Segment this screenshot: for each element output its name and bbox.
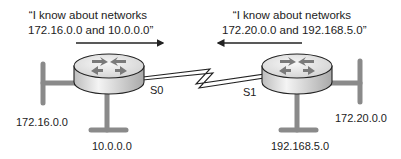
network-label-172-20: 172.20.0.0 [335,112,387,125]
network-diagram: “I know about networks 172.16.0.0 and 10… [0,0,401,159]
right-advertisement-line2: 172.20.0.0 and 192.168.5.0” [222,23,362,38]
right-router-icon [262,54,332,94]
network-label-10: 10.0.0.0 [92,140,132,153]
left-advertisement-text: “I know about networks 172.16.0.0 and 10… [28,8,148,38]
right-advertisement-text: “I know about networks 172.20.0.0 and 19… [222,8,362,38]
network-label-172-16: 172.16.0.0 [16,116,68,129]
right-advertisement-line1: “I know about networks [222,8,362,23]
network-segment-bottom-right [281,92,316,130]
interface-label-s0: S0 [150,84,163,97]
network-label-192-168: 192.168.5.0 [271,140,329,153]
network-segment-bottom-left [91,92,126,130]
left-advertisement-line1: “I know about networks [28,8,148,23]
left-advertisement-line2: 172.16.0.0 and 10.0.0.0” [28,23,148,38]
interface-label-s1: S1 [243,86,256,99]
left-router-icon [74,54,144,94]
